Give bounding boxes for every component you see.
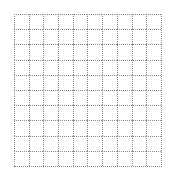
grid-cell (146, 44, 161, 59)
dotted-grid (14, 14, 162, 167)
grid-cell (29, 105, 44, 120)
grid-cell (87, 120, 102, 135)
grid-cell (29, 90, 44, 105)
grid-cell (146, 75, 161, 90)
grid-cell (58, 151, 73, 166)
grid-cell (117, 120, 132, 135)
grid-cell (87, 105, 102, 120)
grid-cell (117, 151, 132, 166)
grid-cell (117, 105, 132, 120)
grid-cell (102, 136, 117, 151)
grid-cell (146, 105, 161, 120)
grid-cell (87, 44, 102, 59)
grid-cell (43, 105, 58, 120)
grid-cell (102, 75, 117, 90)
grid-cell (102, 120, 117, 135)
grid-cell (58, 44, 73, 59)
grid-cell (43, 151, 58, 166)
grid-cell (43, 90, 58, 105)
grid-cell (73, 14, 88, 29)
grid-cell (73, 44, 88, 59)
grid-cell (117, 60, 132, 75)
grid-cell (43, 29, 58, 44)
grid-cell (146, 151, 161, 166)
grid-cell (73, 75, 88, 90)
grid-cell (132, 136, 147, 151)
grid-cell (132, 60, 147, 75)
grid-cell (132, 29, 147, 44)
grid-cell (146, 14, 161, 29)
grid-cell (43, 136, 58, 151)
grid-cell (14, 14, 29, 29)
grid-cell (146, 136, 161, 151)
grid-cell (132, 90, 147, 105)
grid-cell (58, 75, 73, 90)
grid-cell (29, 44, 44, 59)
grid-cell (132, 75, 147, 90)
grid-cell (73, 136, 88, 151)
grid-cell (87, 136, 102, 151)
grid-cell (29, 14, 44, 29)
grid-cell (43, 14, 58, 29)
grid-cell (43, 44, 58, 59)
grid-cell (87, 90, 102, 105)
grid-cell (43, 60, 58, 75)
grid-cell (58, 90, 73, 105)
grid-cell (29, 120, 44, 135)
grid-cell (146, 120, 161, 135)
grid-cell (87, 29, 102, 44)
grid-cell (29, 29, 44, 44)
grid-cell (29, 75, 44, 90)
grid-cell (146, 60, 161, 75)
grid-cell (14, 75, 29, 90)
grid-cell (102, 29, 117, 44)
grid-cell (73, 105, 88, 120)
grid-cell (117, 14, 132, 29)
grid-cell (73, 90, 88, 105)
grid-cell (58, 29, 73, 44)
grid-cell (117, 90, 132, 105)
grid-cell (132, 14, 147, 29)
grid-cell (117, 29, 132, 44)
grid-cell (102, 44, 117, 59)
grid-cell (132, 120, 147, 135)
grid-cell (117, 136, 132, 151)
grid-cell (132, 44, 147, 59)
grid-cell (73, 120, 88, 135)
grid-cell (132, 105, 147, 120)
grid-cell (102, 105, 117, 120)
grid-cell (58, 14, 73, 29)
grid-cell (58, 136, 73, 151)
grid-cell (146, 29, 161, 44)
grid-cell (102, 14, 117, 29)
grid-cell (117, 75, 132, 90)
grid-cell (73, 60, 88, 75)
grid-cell (146, 90, 161, 105)
grid-cell (132, 151, 147, 166)
grid-cell (87, 14, 102, 29)
grid-cell (117, 44, 132, 59)
grid-cell (102, 60, 117, 75)
grid-cell (29, 136, 44, 151)
grid-cell (58, 105, 73, 120)
grid-cell (14, 151, 29, 166)
grid-cell (102, 151, 117, 166)
grid-cell (87, 151, 102, 166)
grid-cell (73, 151, 88, 166)
grid-cell (14, 60, 29, 75)
grid-cell (58, 120, 73, 135)
grid-cell (43, 120, 58, 135)
grid-cell (43, 75, 58, 90)
grid-cell (14, 105, 29, 120)
grid-cell (14, 136, 29, 151)
grid-cell (29, 151, 44, 166)
canvas (0, 0, 170, 180)
grid-cell (14, 120, 29, 135)
grid-cell (87, 60, 102, 75)
grid-cell (87, 75, 102, 90)
grid-cell (14, 29, 29, 44)
grid-cell (29, 60, 44, 75)
grid-cell (58, 60, 73, 75)
grid-cell (14, 90, 29, 105)
grid-cell (102, 90, 117, 105)
